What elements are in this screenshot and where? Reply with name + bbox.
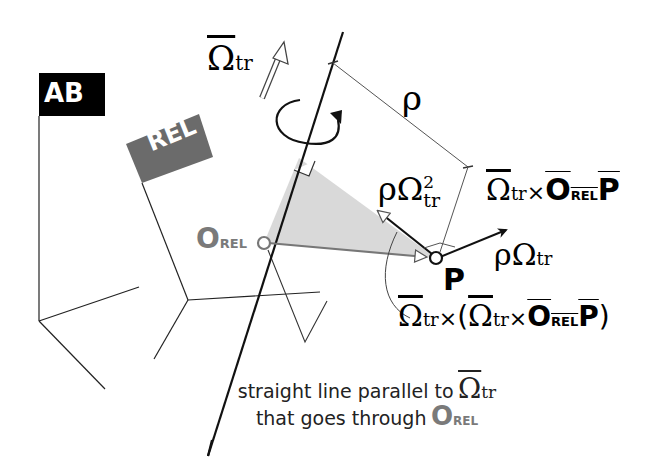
body-sketch: [268, 250, 327, 342]
tangential-label: ρΩtr: [494, 237, 552, 272]
origin-rel-label: OREL: [196, 222, 247, 255]
caption: straight line parallel to Ωtr that goes …: [222, 372, 512, 431]
omega-tr-label: Ωtr: [207, 38, 253, 78]
centripetal-label: ρΩ2tr: [378, 170, 440, 214]
point-p: [430, 252, 442, 264]
rho-dimension-line: [333, 63, 468, 167]
rho-label: ρ: [402, 78, 422, 118]
absolute-frame: [39, 73, 139, 389]
origin-rel-point: [258, 237, 270, 249]
point-p-label: P: [443, 262, 465, 297]
rotation-arrow: [277, 100, 339, 144]
ab-label: AB: [44, 78, 84, 108]
tangential-cross-label: Ωtr×ORELP: [486, 172, 620, 207]
double-cross-label: Ωtr×(Ωtr×ORELP): [398, 298, 610, 333]
